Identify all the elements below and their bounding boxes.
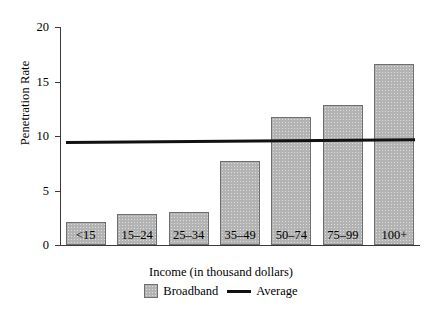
x-axis-tick-label: 15–24 xyxy=(122,229,153,242)
y-axis-tick: 5 xyxy=(55,191,60,192)
y-axis-tick: 10 xyxy=(55,136,60,137)
y-axis-title: Penetration Rate xyxy=(16,0,34,218)
x-axis-tick-label: 35–49 xyxy=(224,229,255,242)
y-axis-tick: 20 xyxy=(55,27,60,28)
chart-legend: Broadband Average xyxy=(0,284,442,298)
x-axis-tick-label: <15 xyxy=(76,229,96,242)
x-axis-line xyxy=(60,245,420,246)
legend-entry-broadband: Broadband xyxy=(144,284,218,298)
y-axis-tick-label: 5 xyxy=(43,184,49,197)
legend-square-swatch-icon xyxy=(144,284,158,298)
legend-line-swatch-icon xyxy=(227,290,251,293)
bar[interactable] xyxy=(271,117,311,245)
x-axis-title: Income (in thousand dollars) xyxy=(0,266,442,279)
x-axis-tick-label: 100+ xyxy=(381,229,407,242)
x-axis-tick-label: 75–99 xyxy=(327,229,358,242)
legend-entry-average: Average xyxy=(227,285,297,298)
y-axis-tick: 15 xyxy=(55,82,60,83)
y-axis-tick-label: 15 xyxy=(37,75,50,88)
x-axis-tick-label: 25–34 xyxy=(173,229,204,242)
legend-label-average: Average xyxy=(256,285,297,298)
y-axis-tick-label: 10 xyxy=(37,130,50,143)
y-axis-tick-label: 0 xyxy=(43,239,49,252)
y-axis-line xyxy=(60,27,61,245)
x-axis-tick-label: 50–74 xyxy=(276,229,307,242)
bar[interactable] xyxy=(374,64,414,245)
y-axis-tick-label: 20 xyxy=(37,21,50,34)
legend-label-broadband: Broadband xyxy=(163,285,218,298)
bar[interactable] xyxy=(323,105,363,245)
y-axis-tick: 0 xyxy=(55,245,60,246)
chart-figure: Penetration Rate 05101520 <1515–2425–343… xyxy=(0,0,442,315)
plot-area: 05101520 xyxy=(60,20,420,245)
